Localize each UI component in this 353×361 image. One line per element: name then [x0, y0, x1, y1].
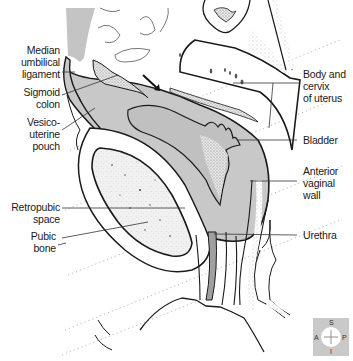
abdominal-wall-region: [66, 8, 95, 62]
label-body-and-cervix-of-uterus: Body and cervix of uterus: [303, 68, 346, 104]
compass-anterior: A: [314, 334, 319, 341]
label-sigmoid-colon: Sigmoid colon: [6, 86, 60, 110]
labia-stipple: [266, 300, 290, 318]
orientation-compass: S I A P: [313, 318, 349, 356]
rectum-lumen: [214, 8, 236, 22]
label-urethra: Urethra: [303, 229, 337, 241]
label-bladder: Bladder: [303, 134, 338, 146]
label-anterior-vaginal-wall: Anterior vaginal wall: [303, 165, 338, 201]
label-pubic-bone: Pubic bone: [6, 230, 56, 254]
label-median-umbilical-ligament: Median umbilical ligament: [6, 44, 60, 80]
label-retropubic-space: Retropubic space: [2, 201, 60, 225]
compass-superior: S: [329, 319, 334, 326]
thigh-outline: [95, 320, 112, 350]
sigmoid-colon-loops: [98, 8, 168, 62]
perineum-outline: [140, 298, 264, 352]
compass-inferior: I: [330, 348, 332, 355]
label-vesico-uterine-pouch: Vesico- uterine pouch: [6, 116, 60, 152]
compass-posterior: P: [342, 334, 347, 341]
